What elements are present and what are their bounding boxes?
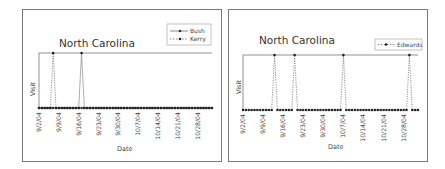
y-axis-label: Visit [29, 82, 37, 96]
x-tick-label: 9/30/04 [319, 114, 326, 138]
plot-area [242, 54, 419, 111]
legend-label-kerry: Kerry [190, 35, 206, 43]
x-tick-label: 10/28/04 [400, 114, 407, 142]
x-tick-label: 9/23/04 [299, 114, 306, 138]
chart-title: North Carolina [59, 37, 135, 49]
chart-panel-right: North Carolina Edwards Visit Date 9/2/04… [228, 9, 428, 162]
chart-panel-left: North Carolina Bush Kerry Visit Date 9/2… [22, 9, 222, 162]
chart-left-svg: North Carolina Bush Kerry Visit Date 9/2… [23, 10, 223, 163]
x-tick-label: 9/16/04 [75, 112, 82, 136]
x-tick-label: 9/9/04 [55, 112, 62, 132]
x-tick-label: 9/2/04 [35, 112, 42, 132]
x-tick-label: 10/14/04 [154, 112, 161, 140]
y-axis-label: Visit [235, 80, 243, 94]
x-axis-label: Date [328, 143, 344, 151]
x-tick-label: 9/16/04 [279, 114, 286, 138]
x-tick-label: 10/21/04 [174, 112, 181, 140]
x-tick-label: 9/30/04 [114, 112, 121, 136]
x-tick-label: 10/14/04 [359, 114, 366, 142]
x-axis-label: Date [117, 145, 133, 153]
legend: Edwards [375, 39, 422, 50]
chart-title: North Carolina [259, 34, 335, 46]
legend-label-edwards: Edwards [397, 41, 422, 48]
plot-area [38, 52, 213, 109]
x-axis-ticks: 9/2/049/9/049/16/049/23/049/30/0410/7/04… [35, 112, 201, 140]
x-tick-label: 10/7/04 [339, 114, 346, 138]
legend: Bush Kerry [167, 24, 211, 45]
x-axis-ticks: 9/2/049/9/049/16/049/23/049/30/0410/7/04… [239, 114, 407, 142]
x-tick-label: 10/7/04 [134, 112, 141, 136]
x-tick-label: 10/21/04 [380, 114, 387, 142]
chart-right-svg: North Carolina Edwards Visit Date 9/2/04… [229, 10, 429, 163]
x-tick-label: 9/2/04 [239, 114, 246, 134]
x-tick-label: 9/23/04 [95, 112, 102, 136]
legend-label-bush: Bush [190, 27, 205, 34]
x-tick-label: 10/28/04 [194, 112, 201, 140]
x-tick-label: 9/9/04 [259, 114, 266, 134]
